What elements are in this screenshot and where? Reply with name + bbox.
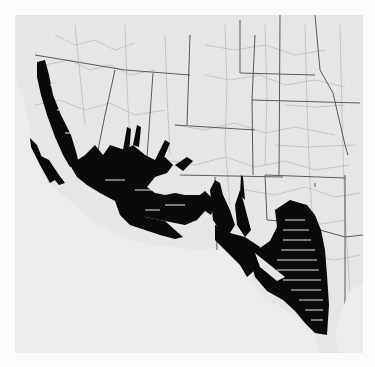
county-map bbox=[15, 15, 363, 353]
page bbox=[0, 0, 375, 367]
map-svg bbox=[15, 15, 363, 353]
